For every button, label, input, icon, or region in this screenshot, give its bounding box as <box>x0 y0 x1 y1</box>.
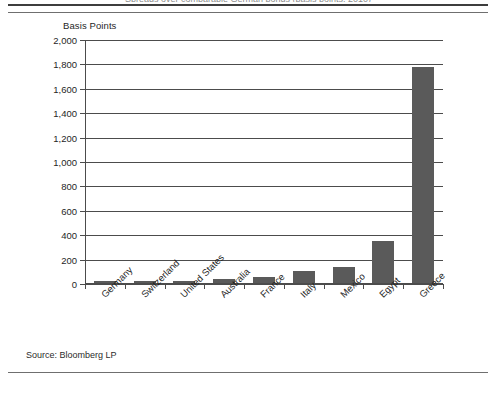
y-axis-tick <box>80 138 85 139</box>
y-axis-tick <box>80 89 85 90</box>
y-axis-tick-label: 1,400 <box>53 108 77 119</box>
y-axis-tick <box>80 235 85 236</box>
y-axis-tick-label: 0 <box>72 279 77 290</box>
y-axis-tick <box>80 260 85 261</box>
y-axis-tick <box>80 64 85 65</box>
y-axis-tick-label: 1,800 <box>53 59 77 70</box>
gridline <box>85 186 443 187</box>
gridline <box>85 89 443 90</box>
x-axis-tick <box>403 284 404 289</box>
y-axis-tick <box>80 40 85 41</box>
gridline <box>85 113 443 114</box>
bar <box>412 67 434 283</box>
y-axis-tick-label: 1,000 <box>53 157 77 168</box>
y-axis-tick-label: 1,600 <box>53 83 77 94</box>
x-axis-tick <box>443 284 444 289</box>
y-axis-tick-label: 400 <box>61 230 77 241</box>
gridline <box>85 64 443 65</box>
y-axis-tick <box>80 113 85 114</box>
y-axis-title: Basis Points <box>63 20 116 31</box>
y-axis-tick <box>80 186 85 187</box>
figure-frame: Spreads over comparable German bonds (ba… <box>0 0 496 394</box>
x-axis-tick <box>85 284 86 289</box>
x-axis-tick <box>125 284 126 289</box>
bar-chart: Basis Points 02004006008001,0001,2001,40… <box>0 0 496 394</box>
x-axis-tick <box>244 284 245 289</box>
source-note: Source: Bloomberg LP <box>26 350 117 360</box>
gridline <box>85 211 443 212</box>
gridline <box>85 235 443 236</box>
x-axis-tick <box>324 284 325 289</box>
gridline <box>85 162 443 163</box>
gridline <box>85 138 443 139</box>
y-axis-tick <box>80 211 85 212</box>
x-axis-tick <box>284 284 285 289</box>
y-axis-tick-label: 800 <box>61 181 77 192</box>
gridline <box>85 40 443 41</box>
plot-area: 02004006008001,0001,2001,4001,6001,8002,… <box>85 40 443 284</box>
y-axis-tick-label: 2,000 <box>53 35 77 46</box>
x-axis-tick <box>165 284 166 289</box>
y-axis-tick-label: 600 <box>61 205 77 216</box>
x-axis-tick <box>204 284 205 289</box>
x-axis-tick <box>363 284 364 289</box>
y-axis-tick <box>80 162 85 163</box>
y-axis-tick-label: 1,200 <box>53 132 77 143</box>
y-axis-tick-label: 200 <box>61 254 77 265</box>
